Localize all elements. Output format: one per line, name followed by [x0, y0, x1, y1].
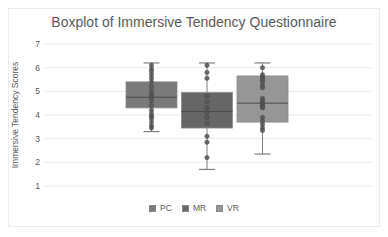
y-tick-label: 3	[35, 134, 40, 144]
y-tick-label: 1	[35, 181, 40, 191]
legend-item-vr: VR	[216, 203, 239, 213]
data-point	[260, 106, 264, 110]
data-point	[260, 86, 264, 90]
plot-area: 1234567	[0, 0, 388, 237]
data-point	[205, 94, 209, 98]
legend-item-pc: PC	[149, 203, 172, 213]
data-point	[205, 100, 209, 104]
data-point	[149, 126, 153, 130]
data-point	[205, 106, 209, 110]
legend-label: VR	[227, 203, 239, 213]
y-tick-label: 2	[35, 157, 40, 167]
data-point	[205, 70, 209, 74]
data-point	[205, 134, 209, 138]
legend-label: MR	[193, 203, 206, 213]
legend: PCMRVR	[0, 203, 388, 213]
data-point	[149, 84, 153, 88]
data-point	[205, 140, 209, 144]
boxplot-mr	[182, 63, 233, 170]
legend-swatch	[216, 205, 223, 212]
data-point	[205, 115, 209, 119]
data-point	[149, 99, 153, 103]
y-axis-ticks: 1234567	[35, 39, 40, 191]
data-point	[149, 103, 153, 107]
data-point	[205, 63, 209, 67]
data-point	[205, 121, 209, 125]
data-point	[205, 110, 209, 114]
y-tick-label: 5	[35, 86, 40, 96]
legend-item-mr: MR	[182, 203, 206, 213]
data-point	[260, 128, 264, 132]
legend-swatch	[149, 205, 156, 212]
boxplots	[126, 63, 288, 170]
y-tick-label: 7	[35, 39, 40, 49]
legend-label: PC	[160, 203, 172, 213]
boxplot-vr	[237, 63, 288, 154]
data-point	[205, 76, 209, 80]
legend-swatch	[182, 205, 189, 212]
data-point	[260, 65, 264, 69]
y-tick-label: 6	[35, 63, 40, 73]
y-tick-label: 4	[35, 110, 40, 120]
data-point	[205, 155, 209, 159]
boxplot-pc	[126, 63, 177, 132]
data-point	[149, 80, 153, 84]
